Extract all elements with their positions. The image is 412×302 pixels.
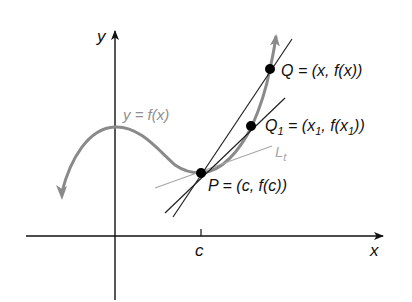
secant-tangent-diagram: y x c y = f(x) Lt P = (c, f(c)) Q = (x, … xyxy=(0,0,412,302)
curve-label: y = f(x) xyxy=(122,106,169,123)
point-p-label: P = (c, f(c)) xyxy=(208,177,287,194)
secant-line-q1 xyxy=(165,98,285,213)
point-q-label: Q = (x, f(x)) xyxy=(281,62,362,79)
point-q1-label: Q1 = (x1, f(x1)) xyxy=(265,117,365,137)
point-p xyxy=(196,168,206,178)
tick-label-c: c xyxy=(195,241,204,260)
q1-eq-open: = (x xyxy=(284,117,317,134)
tangent-label-sub: t xyxy=(283,151,287,163)
point-q xyxy=(265,64,275,74)
x-axis-label: x xyxy=(369,241,379,260)
curve-left-arrow-icon xyxy=(56,185,67,200)
y-axis-label: y xyxy=(96,27,107,46)
tangent-label: Lt xyxy=(275,143,287,163)
q1-mid: , f(x xyxy=(321,117,349,134)
tangent-label-main: L xyxy=(275,143,283,160)
point-q1 xyxy=(246,121,256,131)
q1-close: )) xyxy=(352,117,365,134)
q1-name: Q xyxy=(265,117,277,134)
